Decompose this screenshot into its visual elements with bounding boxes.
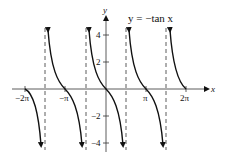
- x-tick-label: −π: [59, 93, 69, 103]
- y-tick-label: −2: [91, 111, 101, 121]
- y-tick-label: 2: [96, 57, 101, 67]
- chart-title: y = −tan x: [128, 12, 174, 24]
- y-tick-label: −4: [91, 138, 101, 148]
- chart: x y −2π −π π 2π 4 2 −2 −4 y = −tan x: [0, 0, 225, 156]
- x-axis-label: x: [210, 84, 215, 94]
- x-tick-label: π: [143, 93, 148, 103]
- x-tick-label: 2π: [180, 93, 190, 103]
- y-tick-label: 4: [96, 30, 101, 40]
- x-tick-label: −2π: [15, 93, 30, 103]
- y-axis-label: y: [102, 5, 107, 15]
- curves: [25, 30, 186, 145]
